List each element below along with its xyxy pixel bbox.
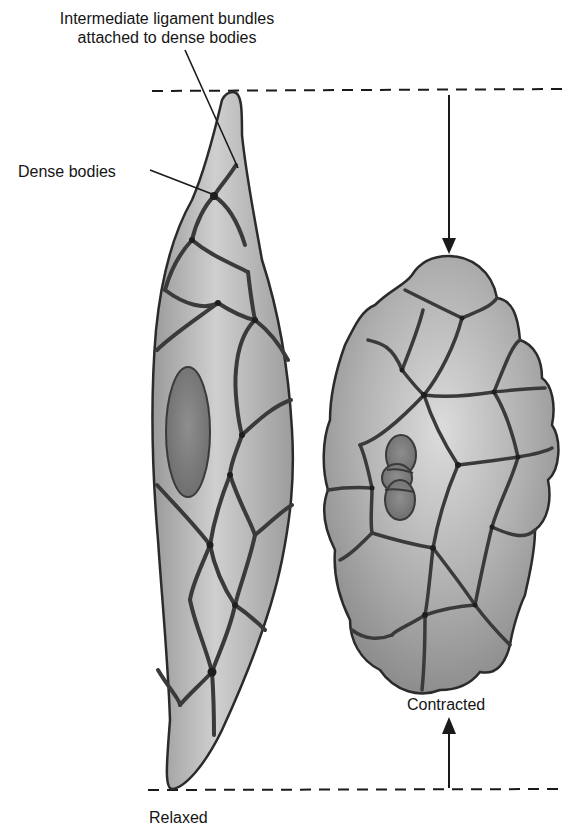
label-contracted: Contracted [407, 695, 485, 714]
label-dense-bodies: Dense bodies [18, 162, 116, 181]
bottom-dashed-reference-line [148, 789, 565, 790]
relaxed-cell [152, 92, 293, 789]
contracted-nucleus [382, 435, 416, 520]
top-dashed-reference-line [152, 89, 565, 91]
label-ligament-line2: attached to dense bodies [47, 28, 287, 47]
down-arrow-icon [442, 95, 456, 254]
label-ligament-line1: Intermediate ligament bundles [47, 9, 287, 28]
label-relaxed: Relaxed [149, 808, 208, 827]
contracted-cell [324, 256, 559, 693]
relaxed-nucleus [166, 367, 210, 497]
up-arrow-icon [442, 717, 456, 788]
diagram-canvas [0, 0, 585, 832]
label-intermediate-ligament-bundles: Intermediate ligament bundles attached t… [47, 9, 287, 47]
